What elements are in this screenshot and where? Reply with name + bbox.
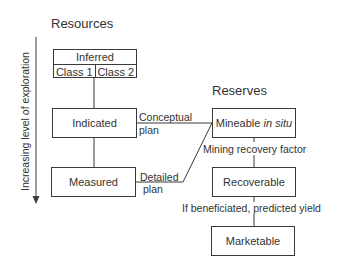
measured-box: Measured	[51, 167, 136, 197]
exploration-axis-label: Increasing level of exploration	[19, 52, 31, 191]
detailed-plan-label-line1: Detailed	[140, 171, 179, 183]
mineable-box: Mineable in situ	[212, 108, 296, 138]
recoverable-label: Recoverable	[223, 176, 285, 188]
marketable-box: Marketable	[211, 226, 295, 256]
beneficiation-yield-label: If beneficiated, predicted yield	[182, 202, 321, 214]
mineable-label: Mineable	[216, 117, 261, 129]
marketable-label: Marketable	[226, 235, 280, 247]
detailed-plan-label-line2: plan	[143, 183, 163, 195]
indicated-box: Indicated	[52, 108, 137, 138]
conceptual-plan-label-line1: Conceptual	[139, 111, 192, 123]
measured-label: Measured	[69, 176, 118, 188]
reserves-heading: Reserves	[212, 83, 267, 98]
indicated-label: Indicated	[72, 117, 117, 129]
mining-recovery-factor-label: Mining recovery factor	[203, 143, 306, 155]
inferred-box: Inferred Class 1 Class 2	[53, 49, 137, 78]
resources-heading: Resources	[51, 16, 113, 31]
mineable-in-situ: in situ	[263, 117, 292, 129]
conceptual-plan-label-line2: plan	[139, 124, 159, 136]
recoverable-box: Recoverable	[212, 167, 296, 197]
inferred-class-1: Class 1	[54, 65, 96, 78]
inferred-label: Inferred	[54, 50, 136, 65]
inferred-class-2: Class 2	[96, 65, 137, 78]
